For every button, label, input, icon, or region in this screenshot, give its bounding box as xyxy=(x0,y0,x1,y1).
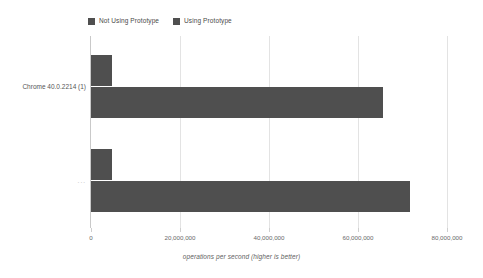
legend-label: Not Using Prototype xyxy=(99,17,159,25)
xtick-label-0: 0 xyxy=(89,234,92,242)
legend-swatch-icon xyxy=(173,18,180,25)
bar-chart: Not Using Prototype Using Prototype Chro… xyxy=(0,0,483,278)
xtick-20m xyxy=(180,228,181,232)
chart-legend: Not Using Prototype Using Prototype xyxy=(88,15,232,27)
plot-area: Chrome 40.0.2214 (1) ... 0 20,000,000 40… xyxy=(91,36,447,228)
bar-other-using-prototype[interactable] xyxy=(91,181,410,212)
category-label-chrome: Chrome 40.0.2214 (1) xyxy=(22,83,86,91)
x-axis-title: operations per second (higher is better) xyxy=(0,253,483,260)
bar-other-not-using-prototype[interactable] xyxy=(91,149,112,180)
xtick-0 xyxy=(91,228,92,232)
legend-swatch-icon xyxy=(88,18,95,25)
legend-item-using-prototype[interactable]: Using Prototype xyxy=(173,17,232,25)
xtick-60m xyxy=(358,228,359,232)
legend-label: Using Prototype xyxy=(184,17,232,25)
bar-chrome-not-using-prototype[interactable] xyxy=(91,55,112,86)
gridline-80m xyxy=(447,36,448,228)
bar-chrome-using-prototype[interactable] xyxy=(91,87,383,118)
legend-item-not-using-prototype[interactable]: Not Using Prototype xyxy=(88,17,159,25)
xtick-label-60m: 60,000,000 xyxy=(343,234,374,242)
xtick-label-20m: 20,000,000 xyxy=(165,234,196,242)
xtick-label-40m: 40,000,000 xyxy=(254,234,285,242)
xtick-label-80m: 80,000,000 xyxy=(432,234,463,242)
category-label-other: ... xyxy=(78,177,86,185)
xtick-40m xyxy=(269,228,270,232)
xtick-80m xyxy=(447,228,448,232)
